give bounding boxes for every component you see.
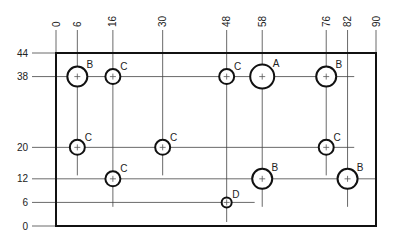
hole-label: B bbox=[357, 162, 364, 173]
x-dimension-label: 82 bbox=[342, 15, 353, 27]
y-dimension-label: 0 bbox=[22, 221, 28, 232]
y-dimension-label: 44 bbox=[17, 48, 29, 59]
x-dimension-label: 76 bbox=[321, 15, 332, 27]
x-dimension-label: 30 bbox=[157, 15, 168, 27]
holes: BCCABCCCCBBD bbox=[67, 58, 363, 207]
hole-label: D bbox=[232, 189, 239, 200]
hole-location-drawing: BCCABCCCCBBD 06163048587682904438201260 bbox=[0, 0, 397, 238]
x-dimension-label: 16 bbox=[107, 15, 118, 27]
dimension-lines bbox=[32, 30, 376, 226]
hole-label: C bbox=[85, 132, 92, 143]
hole-label: B bbox=[271, 162, 278, 173]
hole-label: C bbox=[234, 61, 241, 72]
y-dimension-label: 38 bbox=[17, 71, 29, 82]
hole-label: C bbox=[170, 132, 177, 143]
hole-label: C bbox=[120, 61, 127, 72]
x-dimension-label: 6 bbox=[72, 21, 83, 27]
dimension-labels: 06163048587682904438201260 bbox=[17, 15, 382, 231]
y-dimension-label: 20 bbox=[17, 142, 29, 153]
hole-label: C bbox=[334, 132, 341, 143]
x-dimension-label: 0 bbox=[51, 21, 62, 27]
y-dimension-label: 6 bbox=[22, 197, 28, 208]
hole-label: B bbox=[335, 59, 342, 70]
x-dimension-label: 90 bbox=[371, 15, 382, 27]
x-dimension-label: 58 bbox=[257, 15, 268, 27]
y-dimension-label: 12 bbox=[17, 173, 29, 184]
hole-label: A bbox=[273, 58, 280, 69]
x-dimension-label: 48 bbox=[221, 15, 232, 27]
hole-label: B bbox=[87, 59, 94, 70]
hole-label: C bbox=[120, 163, 127, 174]
